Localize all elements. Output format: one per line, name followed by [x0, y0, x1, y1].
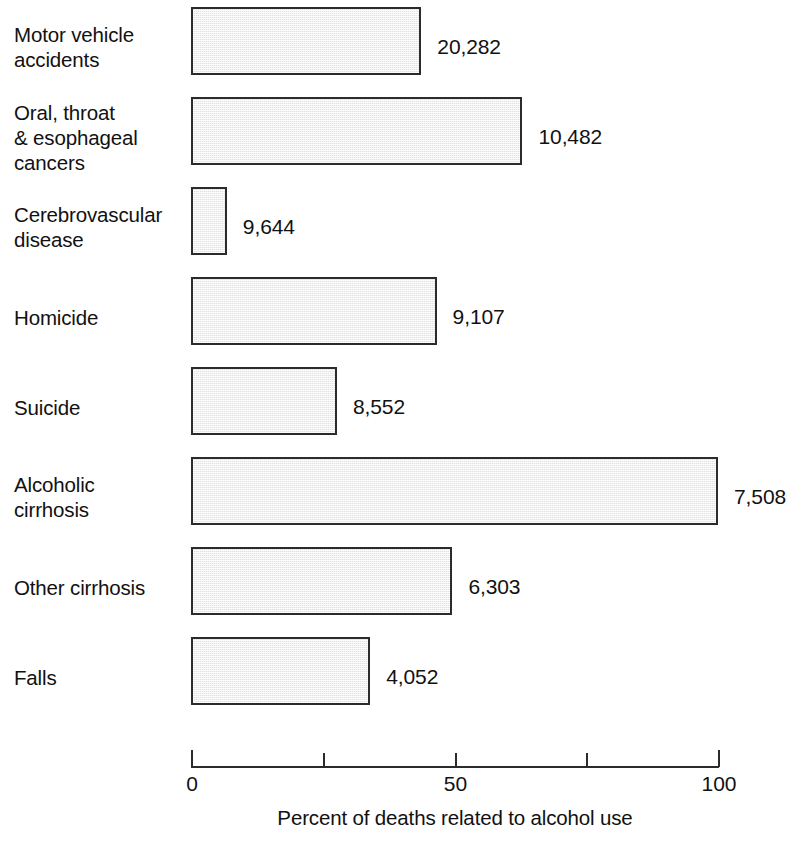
- bar-value-label: 6,303: [452, 542, 520, 632]
- x-axis-tick-label: 50: [444, 772, 467, 796]
- bar-value-label: 4,052: [370, 632, 438, 722]
- bar-track: 6,303: [191, 542, 802, 632]
- bar-value-label: 20,282: [421, 2, 501, 92]
- bar-track: 20,282: [191, 2, 802, 92]
- bar: [191, 7, 421, 75]
- chart-row: Homicide9,107: [0, 272, 802, 362]
- bar-value-label: 8,552: [337, 362, 405, 452]
- category-label: Suicide: [14, 362, 186, 452]
- bar-value-label: 9,107: [437, 272, 505, 362]
- bar-track: 9,644: [191, 182, 802, 272]
- bar: [191, 547, 452, 615]
- bar-track: 4,052: [191, 632, 802, 722]
- bar: [191, 457, 718, 525]
- chart-row: Suicide8,552: [0, 362, 802, 452]
- bar-value-label: 9,644: [227, 182, 295, 272]
- bar: [191, 367, 337, 435]
- chart-row: Falls4,052: [0, 632, 802, 722]
- x-axis-tick-label: 100: [701, 772, 736, 796]
- bar: [191, 187, 227, 255]
- horizontal-bar-chart: Motor vehicle accidents20,282Oral, throa…: [0, 0, 802, 844]
- category-label: Falls: [14, 632, 186, 722]
- x-axis: 050100 Percent of deaths related to alco…: [0, 744, 802, 844]
- category-label: Motor vehicle accidents: [14, 2, 186, 92]
- chart-row: Oral, throat & esophageal cancers10,482: [0, 92, 802, 182]
- bar-track: 9,107: [191, 272, 802, 362]
- category-label: Oral, throat & esophageal cancers: [14, 92, 186, 182]
- x-axis-tick: [455, 753, 457, 767]
- x-axis-tick-label: 0: [186, 772, 198, 796]
- bar-value-label: 10,482: [522, 92, 602, 182]
- x-axis-title: Percent of deaths related to alcohol use: [191, 806, 719, 830]
- bar-track: 7,508: [191, 452, 802, 542]
- chart-row: Alcoholic cirrhosis7,508: [0, 452, 802, 542]
- chart-row: Motor vehicle accidents20,282: [0, 2, 802, 92]
- category-label: Alcoholic cirrhosis: [14, 452, 186, 542]
- bar: [191, 277, 437, 345]
- x-axis-tick: [191, 750, 193, 767]
- chart-row: Other cirrhosis6,303: [0, 542, 802, 632]
- bar: [191, 637, 370, 705]
- bar: [191, 97, 522, 165]
- bar-value-label: 7,508: [718, 452, 786, 542]
- x-axis-tick: [586, 753, 588, 767]
- bar-track: 8,552: [191, 362, 802, 452]
- x-axis-tick: [718, 750, 720, 767]
- bar-track: 10,482: [191, 92, 802, 182]
- category-label: Other cirrhosis: [14, 542, 186, 632]
- category-label: Homicide: [14, 272, 186, 362]
- chart-row: Cerebrovascular disease9,644: [0, 182, 802, 272]
- category-label: Cerebrovascular disease: [14, 182, 186, 272]
- x-axis-tick: [323, 753, 325, 767]
